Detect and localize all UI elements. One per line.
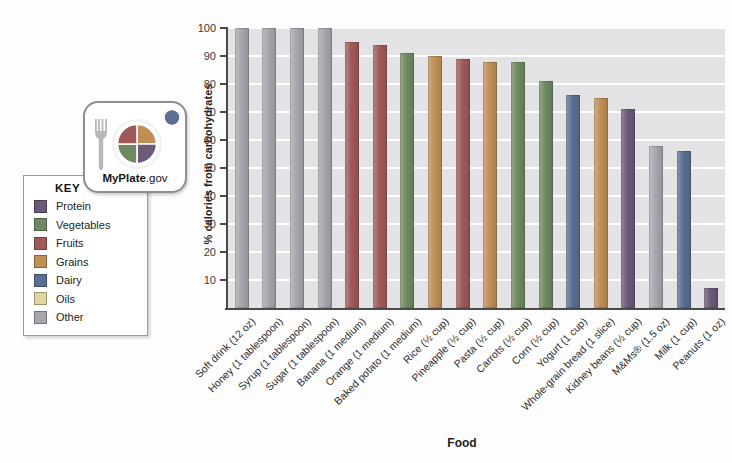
bar-milk-1-cup (677, 151, 691, 308)
grains-swatch-icon (34, 255, 47, 268)
dairy-circle-icon (164, 110, 180, 126)
y-tick-label-90: 90 (186, 49, 216, 63)
bar-banana-1-medium (345, 42, 359, 308)
legend-items: ProteinVegetablesFruitsGrainsDairyOilsOt… (34, 197, 139, 327)
vegetables-swatch-icon (34, 218, 47, 231)
key-item-fruits: Fruits (34, 234, 139, 253)
y-tick-label-10: 10 (186, 273, 216, 287)
bar-kidney-beans-cup (621, 109, 635, 308)
key-item-vegetables: Vegetables (34, 216, 139, 235)
y-tick-20 (220, 251, 227, 253)
bar-soft-drink-12-oz (235, 28, 249, 308)
y-tick-50 (220, 167, 227, 169)
legend-key-box: KEY ProteinVegetablesFruitsGrainsDairyOi… (23, 175, 148, 336)
oils-swatch-icon (34, 292, 47, 305)
bar-pasta-cup (483, 62, 497, 308)
y-tick-label-30: 30 (186, 217, 216, 231)
key-item-label: Oils (56, 293, 75, 305)
bar-whole-grain-bread-1-slice (594, 98, 608, 308)
bar-rice-cup (428, 56, 442, 308)
y-tick-label-70: 70 (186, 105, 216, 119)
bar-m-ms-1-5-oz (649, 146, 663, 308)
key-item-grains: Grains (34, 253, 139, 272)
dairy-swatch-icon (34, 274, 47, 287)
key-item-label: Fruits (56, 237, 84, 249)
key-item-label: Protein (56, 200, 91, 212)
key-item-protein: Protein (34, 197, 139, 216)
key-item-label: Other (56, 311, 84, 323)
y-tick-label-20: 20 (186, 245, 216, 259)
y-tick-label-80: 80 (186, 77, 216, 91)
myplate-wordmark: MyPlate.gov (85, 172, 185, 184)
myplate-suffix: .gov (146, 172, 168, 184)
y-tick-40 (220, 195, 227, 197)
y-tick-60 (220, 139, 227, 141)
bar-peanuts-1-oz (704, 288, 718, 308)
y-tick-10 (220, 279, 227, 281)
bar-sugar-1-tablespoon (318, 28, 332, 308)
bar-carrots-cup (511, 62, 525, 308)
key-item-other: Other (34, 308, 139, 327)
y-tick-30 (220, 223, 227, 225)
myplate-brand: MyPlate (102, 172, 145, 184)
bar-baked-potato-1-medium (400, 53, 414, 308)
y-tick-label-40: 40 (186, 189, 216, 203)
x-axis-title: Food (332, 436, 592, 450)
protein-swatch-icon (34, 200, 47, 213)
other-swatch-icon (34, 311, 47, 324)
bar-pineapple-cup (456, 59, 470, 308)
x-axis-line (225, 308, 725, 310)
key-item-label: Dairy (56, 274, 82, 286)
key-item-label: Grains (56, 256, 88, 268)
key-item-oils: Oils (34, 290, 139, 309)
y-tick-label-60: 60 (186, 133, 216, 147)
y-tick-90 (220, 55, 227, 57)
myplate-plate-icon (85, 106, 185, 170)
bar-honey-1-tablespoon (262, 28, 276, 308)
chart-figure: MyPlate.gov KEY ProteinVegetablesFruitsG… (0, 0, 732, 463)
y-tick-100 (220, 27, 227, 29)
bar-orange-1-medium (373, 45, 387, 308)
y-tick-label-100: 100 (186, 21, 216, 35)
bar-corn-cup (539, 81, 553, 308)
fruits-swatch-icon (34, 237, 47, 250)
key-item-dairy: Dairy (34, 271, 139, 290)
bar-syrup-1-tablespoon (290, 28, 304, 308)
y-tick-80 (220, 83, 227, 85)
myplate-logo: MyPlate.gov (83, 101, 187, 193)
key-item-label: Vegetables (56, 219, 110, 231)
y-tick-70 (220, 111, 227, 113)
fork-icon (95, 119, 107, 170)
bar-yogurt-1-cup (566, 95, 580, 308)
y-tick-label-50: 50 (186, 161, 216, 175)
